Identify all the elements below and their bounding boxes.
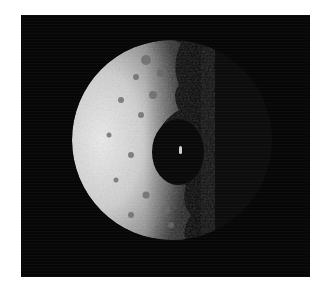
crater-central-peak (179, 146, 182, 154)
crater-shadow (152, 119, 204, 185)
moon-image (21, 15, 310, 277)
photo-frame (21, 15, 310, 277)
